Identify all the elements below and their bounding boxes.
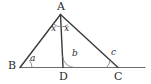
vertex-label-a: A [57, 1, 65, 12]
segment-ad [61, 15, 64, 68]
geometry-figure: A B D C x x a b c [0, 0, 151, 84]
vertex-label-d: D [59, 71, 68, 82]
vertex-label-b: B [8, 60, 16, 71]
vertex-label-c: C [114, 71, 122, 82]
angle-label-abd: a [30, 54, 35, 63]
diagram-canvas [0, 0, 151, 84]
angle-label-acb: c [111, 48, 116, 57]
angle-label-adc: b [72, 49, 78, 58]
angle-label-dac: x [64, 24, 69, 33]
segment-ac [61, 15, 119, 68]
angle-label-bad: x [51, 24, 56, 33]
